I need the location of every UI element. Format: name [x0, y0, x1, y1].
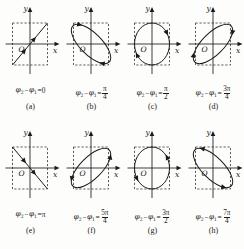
direction-arrow: [70, 176, 75, 182]
plot-area-d: xyO: [183, 0, 244, 88]
plot-area-e: xyO: [0, 124, 61, 212]
y-axis-arrowhead: [89, 131, 94, 136]
phase-symbol-1: φ1: [29, 210, 37, 220]
direction-arrow: [199, 147, 205, 152]
phase-value-fraction: 7π4: [222, 210, 231, 226]
y-axis-label: y: [23, 4, 29, 13]
phase-symbol-2: φ2: [136, 89, 144, 99]
panel-caption-h: φ2−φ1=7π4: [183, 210, 244, 226]
panel-f: xyOφ2−φ1=5π4(f): [61, 124, 122, 248]
panel-label-c: (c): [122, 103, 183, 111]
direction-arrow: [77, 22, 83, 27]
origin-label: O: [201, 169, 207, 178]
phase-value: 0: [42, 87, 46, 94]
phase-symbol-1: φ1: [209, 89, 217, 99]
phase-symbol-2: φ2: [196, 89, 204, 99]
plot-area-b: xyO: [61, 0, 122, 88]
panel-h: xyOφ2−φ1=7π4(h): [183, 124, 244, 248]
plot-area-a: xyO: [0, 0, 61, 88]
panel-caption-g: φ2−φ1=3π2: [122, 210, 183, 226]
panel-b: xyOφ2−φ1=π4(b): [61, 0, 122, 124]
origin-label: O: [18, 169, 24, 178]
phase-symbol-2: φ2: [196, 213, 204, 223]
y-axis-label: y: [84, 128, 90, 137]
direction-arrow: [230, 30, 235, 36]
panel-g: xyOφ2−φ1=3π2(g): [122, 124, 183, 248]
phase-symbol-1: φ1: [89, 89, 97, 99]
plot-area-h: xyO: [183, 124, 244, 212]
direction-arrow: [107, 154, 112, 160]
y-axis-label: y: [84, 4, 90, 13]
fraction-denominator: 4: [102, 93, 108, 102]
y-axis-arrowhead: [89, 7, 94, 12]
y-axis-arrowhead: [150, 131, 155, 136]
plot-h: xyO: [183, 124, 244, 212]
fraction-numerator: 3π: [161, 210, 170, 218]
plot-f: xyO: [61, 124, 122, 212]
panel-label-g: (g): [122, 227, 183, 235]
y-axis-arrowhead: [150, 7, 155, 12]
origin-label: O: [140, 169, 146, 178]
lissajous-figure-grid: xyOφ2−φ1=0(a)xyOφ2−φ1=π4(b)xyOφ2−φ1=π2(c…: [0, 0, 244, 249]
x-axis-label: x: [175, 170, 180, 179]
x-axis-label: x: [175, 46, 180, 55]
phase-symbol-2: φ2: [75, 89, 83, 99]
equals-sign: =: [158, 90, 163, 97]
equals-sign: =: [217, 214, 222, 221]
plot-b: xyO: [61, 0, 122, 88]
panel-label-e: (e): [0, 227, 61, 235]
direction-arrow: [99, 61, 105, 66]
panel-d: xyOφ2−φ1=3π4(d): [183, 0, 244, 124]
plot-area-c: xyO: [122, 0, 183, 88]
y-axis-label: y: [23, 128, 29, 137]
panel-a: xyOφ2−φ1=0(a): [0, 0, 61, 124]
origin-label: O: [201, 45, 207, 54]
y-axis-label: y: [145, 4, 151, 13]
x-axis-label: x: [114, 170, 119, 179]
phase-symbol-1: φ1: [29, 86, 37, 96]
phase-symbol-2: φ2: [16, 210, 24, 220]
panel-label-d: (d): [183, 103, 244, 111]
y-axis-arrowhead: [211, 7, 216, 12]
fraction-numerator: 3π: [222, 86, 231, 94]
phase-symbol-1: φ1: [148, 213, 156, 223]
panel-label-b: (b): [61, 103, 122, 111]
x-axis-label: x: [114, 46, 119, 55]
x-axis-label: x: [53, 170, 58, 179]
plot-area-f: xyO: [61, 124, 122, 212]
panel-e: xyOφ2−φ1=π(e): [0, 124, 61, 248]
phase-value-fraction: 3π4: [222, 86, 231, 102]
panel-caption-c: φ2−φ1=π2: [122, 86, 183, 102]
panel-caption-b: φ2−φ1=π4: [61, 86, 122, 102]
phase-value-fraction: π4: [102, 86, 108, 102]
x-axis-label: x: [236, 46, 241, 55]
phase-symbol-2: φ2: [16, 86, 24, 96]
plot-d: xyO: [183, 0, 244, 88]
plot-e: xyO: [0, 124, 61, 212]
fraction-denominator: 4: [102, 217, 108, 226]
origin-label: O: [18, 45, 24, 54]
panel-label-f: (f): [61, 227, 122, 235]
phase-symbol-2: φ2: [135, 213, 143, 223]
origin-label: O: [79, 169, 85, 178]
phase-symbol-1: φ1: [87, 213, 95, 223]
x-axis-label: x: [53, 46, 58, 55]
fraction-denominator: 4: [224, 217, 230, 226]
phase-value-fraction: π2: [163, 86, 169, 102]
panel-caption-a: φ2−φ1=0: [0, 86, 61, 96]
fraction-numerator: 7π: [222, 210, 231, 218]
y-axis-arrowhead: [28, 131, 33, 136]
y-axis-label: y: [145, 128, 151, 137]
phase-value-fraction: 3π2: [161, 210, 170, 226]
phase-symbol-1: φ1: [209, 213, 217, 223]
panel-label-a: (a): [0, 103, 61, 111]
origin-label: O: [140, 45, 146, 54]
equals-sign: =: [217, 90, 222, 97]
direction-arrow: [221, 184, 227, 189]
y-axis-label: y: [206, 128, 212, 137]
fraction-denominator: 2: [163, 217, 169, 226]
fraction-numerator: π: [163, 86, 169, 94]
phase-value-fraction: 5π4: [100, 210, 109, 226]
panel-label-h: (h): [183, 227, 244, 235]
y-axis-arrowhead: [28, 7, 33, 12]
